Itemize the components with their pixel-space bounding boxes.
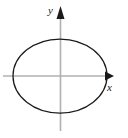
coordinate-plane-svg xyxy=(0,0,128,138)
x-axis-label: x xyxy=(107,82,112,93)
y-axis-arrowhead-icon xyxy=(57,6,65,19)
ellipse-figure: y x xyxy=(0,0,128,138)
y-axis-label: y xyxy=(48,5,53,16)
